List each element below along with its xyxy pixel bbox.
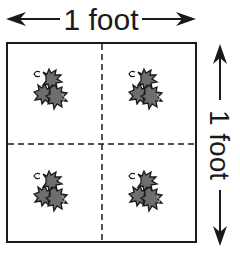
right-dimension-label: 1 foot: [204, 110, 235, 180]
holly-plant-icon: [28, 166, 78, 216]
vertical-double-arrow-icon: 1 foot: [200, 40, 240, 250]
holly-plant-icon: [123, 64, 173, 114]
horizontal-double-arrow-icon: 1 foot: [0, 0, 200, 40]
holly-plant-icon: [123, 166, 173, 216]
right-dimension: 1 foot: [200, 40, 240, 250]
holly-plant-icon: [28, 64, 78, 114]
top-dimension: 1 foot: [0, 0, 200, 40]
top-dimension-label: 1 foot: [63, 3, 139, 36]
